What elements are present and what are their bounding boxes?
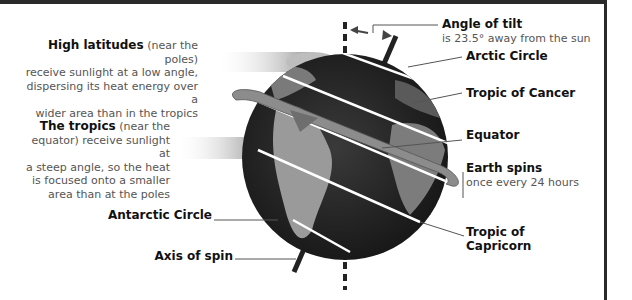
- earth-spins-label: Earth spins once every 24 hours: [466, 161, 579, 189]
- tropic-of-cancer-text: Tropic of Cancer: [466, 86, 575, 100]
- antarctic-circle-label: Antarctic Circle: [100, 208, 212, 222]
- text-line: (near the poles): [144, 39, 198, 66]
- earth-spins-title: Earth spins: [466, 161, 542, 175]
- arctic-circle-label: Arctic Circle: [466, 49, 548, 63]
- text-line: is focused onto a smaller: [20, 174, 170, 188]
- tilt-arrow-right-icon: [382, 30, 392, 40]
- text-line: dispersing its heat energy over a: [18, 80, 198, 107]
- arctic-leader-line: [408, 57, 462, 67]
- tropic-of-capricorn-line1: Tropic of: [466, 225, 525, 239]
- equator-text: Equator: [466, 128, 519, 142]
- text-line: wider area than in the tropics: [18, 107, 198, 121]
- axis-of-spin-text: Axis of spin: [155, 249, 234, 263]
- high-latitudes-description: High latitudes (near the poles) receive …: [18, 39, 198, 120]
- angle-of-tilt-label: Angle of tilt is 23.5° away from the sun: [442, 17, 591, 45]
- tilt-leader-line: [373, 25, 438, 33]
- text-line: equator) receive sunlight at: [20, 134, 170, 161]
- tropic-of-cancer-label: Tropic of Cancer: [466, 86, 575, 100]
- capricorn-leader-line: [420, 222, 464, 236]
- globe: [242, 52, 460, 260]
- tropics-description: The tropics (near the equator) receive s…: [20, 120, 170, 201]
- angle-of-tilt-subtitle: is 23.5° away from the sun: [442, 32, 591, 45]
- equator-label: Equator: [466, 128, 519, 142]
- earth-spins-subtitle: once every 24 hours: [466, 176, 579, 189]
- tropics-heading: The tropics: [40, 119, 116, 133]
- tilt-arrow-left-icon: [350, 26, 358, 34]
- tropic-of-capricorn-label: Tropic of Capricorn: [466, 225, 531, 253]
- text-line: a steep angle, so the heat: [20, 161, 170, 175]
- axis-of-spin-label: Axis of spin: [130, 249, 233, 263]
- arctic-circle-text: Arctic Circle: [466, 49, 548, 63]
- text-line: receive sunlight at a low angle,: [18, 66, 198, 80]
- text-line: (near the: [116, 120, 170, 133]
- high-latitudes-heading: High latitudes: [48, 38, 144, 52]
- angle-of-tilt-title: Angle of tilt: [442, 17, 522, 31]
- tropic-of-capricorn-line2: Capricorn: [466, 239, 531, 253]
- antarctic-circle-text: Antarctic Circle: [108, 208, 212, 222]
- text-line: area than at the poles: [20, 188, 170, 202]
